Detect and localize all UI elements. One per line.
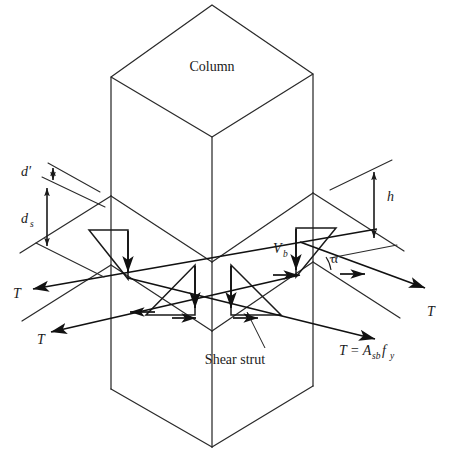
shear-force-symbol: V (273, 241, 283, 256)
tension-equation-tail: f (382, 343, 388, 358)
shear-strut-label: Shear strut (205, 352, 265, 367)
shear-strut-front-right (231, 265, 281, 315)
tension-equation-label: T = A sb f y (339, 343, 395, 361)
tension-label-right-upper: T (427, 304, 436, 319)
tension-equation-tail-sub: y (389, 351, 395, 361)
dim-extension-ds-bottom (36, 243, 104, 277)
label-group: Column Shear strut V b α T T T T = A sb … (13, 59, 436, 367)
tension-label-left-upper: T (13, 286, 22, 301)
shear-strut-front-left (146, 265, 195, 315)
dim-label-ds-symbol: d (21, 211, 29, 226)
dim-extension-h-bottom (330, 245, 397, 258)
tension-equation-lead: T = A (339, 343, 372, 358)
angle-alpha-label: α (331, 251, 338, 266)
dim-label-ds: d s (21, 211, 34, 229)
slab-top-edge-left (111, 196, 212, 262)
tension-equation-lead-sub: sb (372, 351, 381, 361)
dim-extension-d-prime-lower (42, 177, 105, 207)
shear-strut-back-left (89, 230, 128, 279)
shear-strut-diagram: Column Shear strut V b α T T T T = A sb … (0, 0, 450, 463)
dimension-left-group (36, 163, 105, 277)
dim-label-ds-subscript: s (30, 219, 34, 229)
slab-bottom-plane-right (313, 262, 400, 318)
tension-tie-group (33, 229, 425, 339)
dim-label-h: h (387, 189, 394, 204)
dimension-right-group (330, 160, 397, 258)
column-bottom-edge-left (111, 389, 212, 447)
figure-container: Column Shear strut V b α T T T T = A sb … (0, 0, 450, 463)
tension-tie-lower-left (51, 275, 300, 332)
shear-force-subscript: b (283, 249, 288, 259)
column-label: Column (189, 59, 234, 74)
dim-extension-d-prime-upper (48, 163, 100, 192)
column-bottom-edge-right (212, 386, 313, 447)
tension-tie-upper (33, 229, 377, 289)
tension-tie-lower-right (128, 278, 375, 339)
dim-extension-h-top (330, 160, 392, 190)
dim-label-d-prime: d′ (21, 164, 32, 179)
shear-force-label: V b (273, 241, 288, 259)
tension-label-left-lower: T (37, 332, 46, 347)
